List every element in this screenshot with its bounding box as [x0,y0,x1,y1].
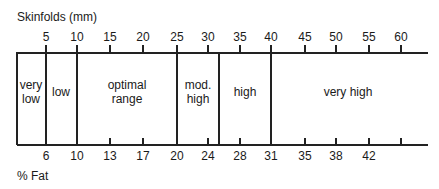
zone-label-line: very [20,78,43,92]
top-tick [109,45,110,52]
zone-label-line: range [108,92,147,106]
top-tick-label: 25 [170,30,183,44]
zone-divider [16,52,18,145]
top-tick-label: 50 [329,30,342,44]
bottom-tick [239,138,240,145]
top-tick [304,45,305,52]
zone-divider [176,52,178,145]
bottom-tick [400,138,401,145]
zone-label-line: high [234,85,257,99]
bottom-tick [109,138,110,145]
zone-label: high [234,85,257,99]
bottom-tick-label: 13 [103,149,116,163]
top-tick [239,45,240,52]
top-tick [142,45,143,52]
bottom-tick [368,138,369,145]
bottom-tick [335,138,336,145]
top-tick [335,45,336,52]
top-tick-label: 45 [298,30,311,44]
zone-label-line: mod. [185,78,212,92]
zone-label: verylow [20,78,43,106]
bottom-tick-label: 38 [329,149,342,163]
zone-label: mod.high [185,78,212,106]
zone-label-line: high [185,92,212,106]
bottom-tick [304,138,305,145]
top-tick [270,45,271,52]
top-tick [207,45,208,52]
zone-divider [270,52,272,145]
top-tick-label: 60 [394,30,407,44]
zone-label-line: optimal [108,78,147,92]
zone-divider [218,52,220,145]
zone-label: low [52,85,70,99]
top-tick-label: 40 [264,30,277,44]
top-tick-label: 15 [103,30,116,44]
top-tick [400,45,401,52]
top-tick-label: 55 [362,30,375,44]
bottom-tick [142,138,143,145]
top-axis-line [17,52,428,54]
top-tick [176,45,177,52]
bottom-tick [207,138,208,145]
top-tick-label: 5 [43,30,50,44]
zone-divider [45,52,47,145]
zone-label-line: low [52,85,70,99]
bottom-tick-label: 24 [201,149,214,163]
bottom-tick-label: 28 [233,149,246,163]
bottom-axis-title: % Fat [17,169,48,183]
zone-label: very high [324,85,373,99]
top-tick [368,45,369,52]
top-axis-title: Skinfolds (mm) [17,10,97,24]
zone-label: optimalrange [108,78,147,106]
zone-label-line: very high [324,85,373,99]
bottom-tick-label: 35 [298,149,311,163]
zone-label-line: low [20,92,43,106]
bottom-tick-label: 10 [70,149,83,163]
bottom-axis-line [17,144,428,146]
top-tick-label: 35 [233,30,246,44]
top-tick-label: 20 [136,30,149,44]
top-tick-label: 10 [70,30,83,44]
bottom-tick-label: 20 [170,149,183,163]
bottom-tick-label: 42 [362,149,375,163]
zone-divider [76,52,78,145]
top-tick-label: 30 [201,30,214,44]
top-tick [76,45,77,52]
bottom-tick-label: 6 [43,149,50,163]
bottom-tick-label: 31 [264,149,277,163]
top-tick [45,45,46,52]
bottom-tick-label: 17 [136,149,149,163]
